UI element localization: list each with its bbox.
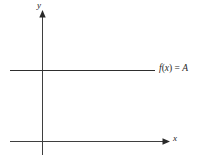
function-constant-a: A [182,63,188,73]
function-equals-sign: = [172,63,182,73]
plot-canvas [0,0,213,162]
y-axis-arrowhead-icon [39,10,45,18]
constant-function-figure: y x f(x) = A [0,0,213,162]
x-axis-label: x [173,134,177,143]
y-axis-label: y [37,1,41,10]
function-equation-label: f(x) = A [159,64,188,74]
x-axis-arrowhead-icon [163,138,171,144]
